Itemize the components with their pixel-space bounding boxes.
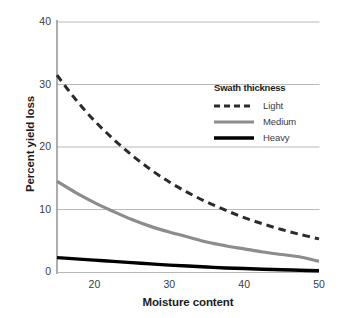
legend-item-heavy: Heavy <box>214 130 322 145</box>
chart-container: 010203040 20304050 Percent yield loss Mo… <box>0 0 345 318</box>
legend-swatch-light-icon <box>214 101 254 111</box>
chart-legend: Swath thickness LightMediumHeavy <box>214 82 322 146</box>
legend-items: LightMediumHeavy <box>214 98 322 145</box>
x-tick-label: 50 <box>306 278 332 290</box>
legend-label: Light <box>263 100 283 111</box>
x-axis-label: Moisture content <box>57 296 319 308</box>
legend-title: Swath thickness <box>214 82 322 93</box>
legend-swatch-medium-icon <box>214 117 254 127</box>
x-tick-label: 30 <box>156 278 182 290</box>
legend-label: Heavy <box>263 132 289 143</box>
y-tick-label: 40 <box>25 15 51 27</box>
series-line-heavy <box>57 258 319 271</box>
x-tick-label: 20 <box>81 278 107 290</box>
legend-swatch-heavy-icon <box>214 133 254 143</box>
y-axis-label: Percent yield loss <box>24 69 36 219</box>
legend-label: Medium <box>263 116 296 127</box>
legend-item-light: Light <box>214 98 322 113</box>
y-tick-label: 0 <box>25 265 51 277</box>
legend-item-medium: Medium <box>214 114 322 129</box>
plot-area <box>0 0 345 318</box>
x-tick-label: 40 <box>231 278 257 290</box>
